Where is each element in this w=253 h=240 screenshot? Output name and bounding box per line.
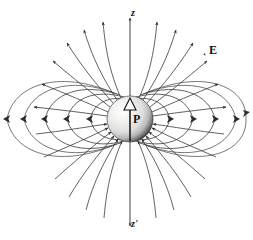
field-line-E-callout <box>153 53 205 114</box>
dipole-field-figure: z z' E P <box>0 0 253 240</box>
electric-field-label: E <box>209 44 217 56</box>
field-line-ul-6 <box>34 107 107 116</box>
field-line-ll-1 <box>104 141 122 218</box>
equator-arrow-left-3 <box>41 115 48 123</box>
z-axis-label: z <box>131 8 135 18</box>
equator-arrow-left-2 <box>63 115 70 123</box>
field-lines-lower-right <box>138 124 224 218</box>
equator-arrow-right-5 <box>243 110 250 117</box>
field-line-ul-1 <box>103 22 121 98</box>
field-diagram-canvas <box>0 0 253 240</box>
field-line-lr-3 <box>146 136 191 197</box>
equator-arrowheads-left <box>3 115 93 123</box>
field-line-ll-6 <box>36 124 107 134</box>
equator-arrow-right-1 <box>167 115 174 123</box>
field-vector-leader <box>153 53 205 114</box>
equator-arrow-right-3 <box>212 115 219 123</box>
field-loop-right-4 <box>143 85 236 152</box>
field-line-lr-1 <box>138 141 156 218</box>
field-line-ll-3 <box>69 136 114 197</box>
polarization-label: P <box>133 113 140 125</box>
z-prime-axis-label: z' <box>131 219 138 229</box>
equator-arrowheads-right <box>167 110 250 123</box>
field-line-ur-6 <box>153 107 226 116</box>
field-line-lr-6 <box>153 124 224 134</box>
field-loop-left-4 <box>24 85 117 152</box>
field-lines-lower-left <box>36 124 122 218</box>
equator-arrow-left-5 <box>3 115 10 123</box>
equator-arrow-right-2 <box>190 115 197 123</box>
equator-arrow-left-1 <box>86 115 93 123</box>
equator-arrow-left-4 <box>20 115 27 123</box>
field-line-ur-1 <box>139 22 157 98</box>
equator-arrow-right-4 <box>233 115 240 123</box>
